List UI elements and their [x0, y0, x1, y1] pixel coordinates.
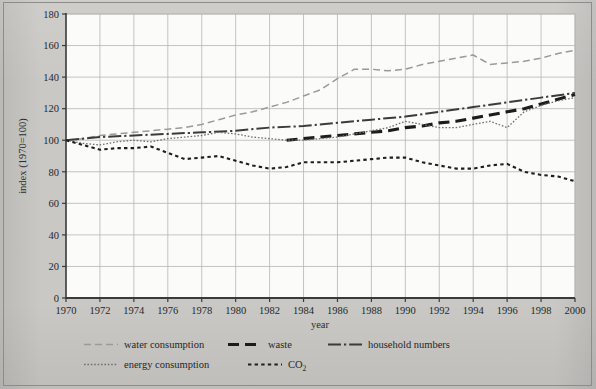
- y-axis-tick-label: 20: [49, 261, 60, 272]
- y-axis-tick-label: 60: [49, 198, 60, 209]
- y-axis-tick-label: 180: [43, 9, 59, 20]
- x-axis-tick-label: 1984: [293, 305, 315, 316]
- line-chart: 020406080100120140160180 197019721974197…: [0, 0, 596, 389]
- y-axis-tick-label: 140: [43, 72, 59, 83]
- x-axis-tick-labels: 1970197219741976197819801982198419861988…: [56, 298, 586, 316]
- plot-area-background: [66, 14, 575, 298]
- x-axis-tick-label: 1974: [123, 305, 145, 316]
- x-axis-tick-label: 1992: [429, 305, 450, 316]
- x-axis-title: year: [311, 319, 330, 330]
- x-axis-tick-label: 1994: [463, 305, 485, 316]
- y-axis-tick-label: 120: [43, 103, 59, 114]
- x-axis-tick-label: 1990: [395, 305, 416, 316]
- x-axis-tick-label: 1988: [361, 305, 382, 316]
- x-axis-tick-label: 1976: [157, 305, 178, 316]
- x-axis-tick-label: 2000: [565, 305, 586, 316]
- x-axis-tick-label: 1982: [259, 305, 280, 316]
- x-axis-tick-label: 1996: [497, 305, 518, 316]
- x-axis-tick-label: 1972: [89, 305, 110, 316]
- legend: water consumptionwastehousehold numberse…: [81, 334, 463, 373]
- y-axis-tick-labels: 020406080100120140160180: [43, 9, 66, 304]
- x-axis-tick-label: 1986: [327, 305, 348, 316]
- x-axis-tick-label: 1970: [56, 305, 77, 316]
- legend-item-water-consumption[interactable]: [81, 334, 219, 353]
- x-axis-tick-label: 1978: [191, 305, 212, 316]
- legend-item-energy-consumption[interactable]: [81, 354, 224, 373]
- y-axis-tick-label: 80: [49, 167, 60, 178]
- legend-item-household-numbers[interactable]: [325, 334, 463, 353]
- y-axis-tick-label: 40: [49, 230, 60, 241]
- y-axis-title: index (1970=100): [17, 118, 29, 194]
- legend-item-waste[interactable]: [225, 334, 298, 353]
- legend-item-co2[interactable]: [245, 354, 307, 373]
- y-axis-tick-label: 0: [54, 293, 59, 304]
- y-axis-tick-label: 160: [43, 40, 59, 51]
- x-axis-tick-label: 1980: [225, 305, 246, 316]
- x-axis-tick-label: 1998: [531, 305, 552, 316]
- y-axis-tick-label: 100: [43, 135, 59, 146]
